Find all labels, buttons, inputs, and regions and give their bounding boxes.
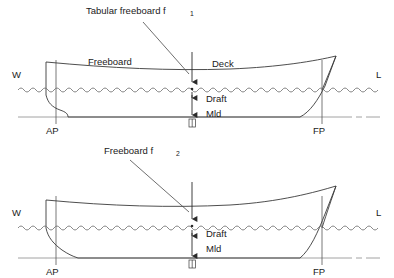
- lower-waterline-wave: [18, 226, 378, 230]
- upper-diagram: Tabular freeboard f 1 Freeboard Deck Dra…: [12, 5, 381, 136]
- lower-waterline-left-label: W: [12, 207, 21, 218]
- upper-callout-subscript: 1: [190, 10, 194, 17]
- upper-callout-leader: [143, 22, 189, 74]
- upper-stem-line: [322, 56, 336, 90]
- lower-mld-label: Mld: [206, 243, 221, 254]
- lower-callout-label: Freeboard f: [104, 145, 153, 156]
- diagram-canvas: Tabular freeboard f 1 Freeboard Deck Dra…: [0, 0, 394, 278]
- upper-ap-label: AP: [46, 125, 59, 136]
- lower-fp-label: FP: [313, 266, 325, 277]
- upper-fp-label: FP: [313, 125, 325, 136]
- upper-midship-symbol: [189, 119, 196, 127]
- lower-callout-subscript: 2: [176, 150, 180, 157]
- upper-draft-label: Draft: [206, 93, 227, 104]
- lower-deck-sheer-line: [46, 186, 336, 206]
- freeboard-diagram-svg: Tabular freeboard f 1 Freeboard Deck Dra…: [0, 0, 394, 278]
- lower-waterline-point: [191, 225, 194, 228]
- lower-callout-leader: [130, 160, 189, 212]
- upper-waterline-point: [191, 88, 194, 91]
- upper-waterline-left-label: W: [12, 69, 21, 80]
- upper-deck-label: Deck: [212, 58, 234, 69]
- lower-stem-line: [322, 186, 336, 228]
- lower-midship-symbol: [189, 260, 196, 268]
- upper-mld-label: Mld: [206, 108, 221, 119]
- lower-ap-label: AP: [46, 266, 59, 277]
- lower-diagram: Freeboard f 2 Draft Mld W L AP FP: [12, 145, 381, 277]
- lower-waterline-right-label: L: [376, 207, 381, 218]
- lower-draft-label: Draft: [206, 228, 227, 239]
- upper-waterline-right-label: L: [376, 69, 381, 80]
- upper-callout-label: Tabular freeboard f: [86, 5, 166, 16]
- upper-freeboard-label: Freeboard: [88, 56, 132, 67]
